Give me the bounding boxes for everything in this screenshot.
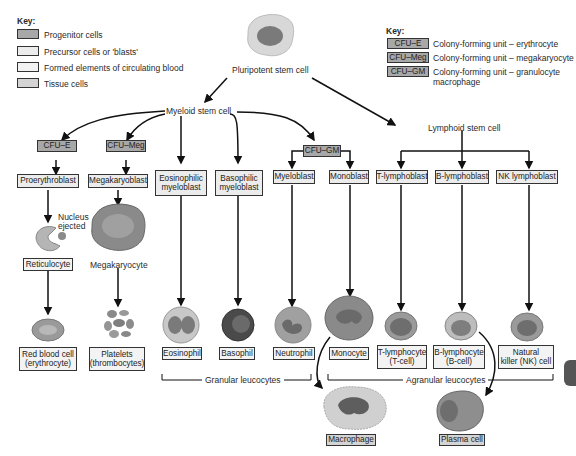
legend-swatch-progenitor xyxy=(17,29,39,39)
t-lymphoblast-box: T-lymphoblast xyxy=(376,170,428,184)
basophilic-line2: myeloblast xyxy=(219,183,258,193)
red-blood-cell-box: Red blood cell (erythrocyte) xyxy=(19,347,77,371)
eosinophilic-line1: Eosinophilic xyxy=(159,174,203,184)
basophilic-line1: Basophilic xyxy=(220,174,257,184)
nk-cell-box: Natural killer (NK) cell xyxy=(498,345,554,369)
t-lymphocyte-line2: (T-cell) xyxy=(389,357,414,367)
b-lymphocyte-box: B-lymphocyte (B-cell) xyxy=(433,345,485,369)
myeloblast-box: Myeloblast xyxy=(273,170,315,184)
platelets-line2: (thrombocytes) xyxy=(90,359,145,369)
monocyte-box: Monocyte xyxy=(329,347,369,360)
page-edge-tab xyxy=(564,360,576,386)
b-lymphocyte-line2: (B-cell) xyxy=(446,357,472,367)
legend-label-precursor: Precursor cells or 'blasts' xyxy=(44,47,138,57)
neutrophil-box: Neutrophil xyxy=(273,347,315,360)
monoblast-box: Monoblast xyxy=(329,170,369,184)
agranular-leucocytes-label: Agranular leucocytes xyxy=(403,375,488,385)
myeloid-stem-cell-label: Myeloid stem cell xyxy=(166,106,231,116)
b-lymphoblast-box: B-lymphoblast xyxy=(435,170,489,184)
b-lymphocyte-line1: B-lymphocyte xyxy=(434,348,484,358)
t-lymphocyte-image xyxy=(384,311,418,341)
legend-cfu-meg-label: Colony-forming unit – megakaryocyte xyxy=(433,53,574,63)
legend-label-tissue: Tissue cells xyxy=(44,79,88,89)
legend-cfu-gm-label: Colony-forming unit – granulocyte xyxy=(433,67,560,77)
lymphoid-stem-cell-label: Lymphoid stem cell xyxy=(428,123,500,133)
legend-swatch-formed xyxy=(17,62,39,72)
pluripotent-stem-cell-label: Pluripotent stem cell xyxy=(232,65,309,75)
rbc-line2: (erythrocyte) xyxy=(25,359,71,369)
eosinophil-image xyxy=(162,306,200,344)
plasma-cell-image xyxy=(433,389,487,433)
granular-leucocytes-label: Granular leucocytes xyxy=(202,375,284,385)
monocyte-image xyxy=(324,295,374,341)
nk-cell-image xyxy=(510,312,544,342)
cfu-meg-box: CFU–Meg xyxy=(106,140,146,152)
nucleus-ejected-line2: ejected xyxy=(58,221,85,231)
legend-left-title: Key: xyxy=(17,16,35,26)
legend-right: Key: CFU–E Colony-forming unit – erythro… xyxy=(384,26,573,86)
eosinophil-box: Eosinophil xyxy=(162,347,202,360)
red-blood-cell-image xyxy=(30,316,66,344)
basophil-box: Basophil xyxy=(219,347,255,360)
megakaryocyte-label: Megakaryocyte xyxy=(90,260,148,270)
cfu-gm-box: CFU–GM xyxy=(303,145,341,157)
basophilic-myeloblast-box: Basophilic myeloblast xyxy=(215,170,263,196)
nk-cell-line1: Natural xyxy=(513,348,539,358)
neutrophil-image xyxy=(274,306,312,344)
eosinophilic-myeloblast-box: Eosinophilic myeloblast xyxy=(155,170,207,196)
pluripotent-stem-cell-image xyxy=(244,12,296,58)
macrophage-box: Macrophage xyxy=(326,434,376,446)
legend-cfu-gm-label-2: macrophage xyxy=(433,77,480,87)
legend-right-title: Key: xyxy=(386,26,404,36)
reticulocyte-box: Reticulocyte xyxy=(23,258,73,271)
nk-lymphoblast-box: NK lymphoblast xyxy=(496,170,558,184)
legend-label-formed: Formed elements of circulating blood xyxy=(44,63,183,73)
b-lymphocyte-image xyxy=(444,311,478,341)
legend-cfu-e-box: CFU–E xyxy=(387,38,429,49)
t-lymphocyte-line1: T-lymphocyte xyxy=(378,348,427,358)
platelets-image xyxy=(102,306,136,340)
megakaryoblast-box: Megakaryoblast xyxy=(88,174,148,188)
nk-cell-line2: killer (NK) cell xyxy=(501,357,552,367)
macrophage-image xyxy=(318,383,390,433)
plasma-cell-box: Plasma cell xyxy=(439,434,485,446)
legend-swatch-precursor xyxy=(17,46,39,56)
legend-left: Key: Progenitor cells Precursor cells or… xyxy=(16,16,206,91)
legend-cfu-gm-box: CFU–GM xyxy=(387,66,429,77)
cfu-e-box: CFU–E xyxy=(37,140,77,152)
rbc-line1: Red blood cell xyxy=(22,350,74,360)
legend-cfu-e-label: Colony-forming unit – erythrocyte xyxy=(433,39,558,49)
legend-cfu-meg-box: CFU–Meg xyxy=(387,52,429,63)
platelets-box: Platelets (thrombocytes) xyxy=(89,347,145,371)
platelets-line1: Platelets xyxy=(101,350,132,360)
proerythroblast-box: Proerythroblast xyxy=(17,174,79,188)
basophil-image xyxy=(221,308,255,342)
legend-swatch-tissue xyxy=(17,78,39,88)
t-lymphocyte-box: T-lymphocyte (T-cell) xyxy=(377,345,427,369)
megakaryocyte-image xyxy=(88,200,148,252)
legend-label-progenitor: Progenitor cells xyxy=(44,30,103,40)
eosinophilic-line2: myeloblast xyxy=(161,183,200,193)
